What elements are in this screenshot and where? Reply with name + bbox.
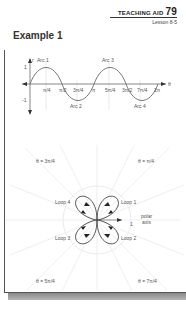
- header-rule: [110, 17, 177, 18]
- x-tick: 3π/2: [122, 87, 133, 93]
- page-shadow: [8, 293, 186, 300]
- teaching-aid-header: TEACHING AID79: [118, 6, 177, 17]
- teaching-aid-number: 79: [165, 6, 177, 17]
- sine-graph: r θ 1 -1 π/4 π/2 3π/4 π 5π/4 3π/2 7π/4 2…: [0, 55, 186, 125]
- angle-label-pi4: θ = π/4: [138, 158, 154, 164]
- x-tick: π/2: [59, 87, 67, 93]
- x-tick: π/4: [43, 87, 51, 93]
- arc-label: Arc 4: [134, 103, 146, 109]
- angle-label-7pi4: θ = 7π/4: [138, 278, 157, 284]
- x-tick: 7π/4: [137, 87, 148, 93]
- angle-label-5pi4: θ = 5π/4: [36, 278, 55, 284]
- x-tick: π: [92, 87, 96, 93]
- lesson-label: Lesson 8-5: [152, 19, 177, 25]
- loop-1-label: Loop 1: [121, 199, 137, 205]
- arc-label: Arc 3: [102, 57, 114, 63]
- polar-axis-label: axis: [142, 219, 151, 225]
- radius-tick: 1: [130, 221, 133, 227]
- y-tick: -1: [22, 97, 27, 103]
- y-tick: 1: [24, 64, 27, 70]
- header-label: TEACHING AID: [118, 10, 164, 16]
- example-title: Example 1: [13, 30, 62, 41]
- x-axis-label: θ: [168, 81, 171, 87]
- worksheet-page: TEACHING AID79 Lesson 8-5 Example 1 r θ …: [0, 0, 186, 298]
- angle-label-3pi4: θ = 3π/4: [36, 158, 55, 164]
- page-border-left: [4, 50, 5, 292]
- x-tick: 5π/4: [105, 87, 116, 93]
- arc-label: Arc 2: [70, 103, 82, 109]
- loop-4-label: Loop 4: [55, 199, 71, 205]
- loop-2-label: Loop 2: [121, 235, 137, 241]
- x-tick: 3π/4: [73, 87, 84, 93]
- arc-label: Arc 1: [37, 57, 49, 63]
- y-axis-label: r: [32, 57, 34, 63]
- polar-graph: Loop 1 Loop 2 Loop 3 Loop 4 polar axis 1…: [0, 140, 186, 290]
- x-tick: 2π: [154, 87, 161, 93]
- loop-3-label: Loop 3: [55, 235, 71, 241]
